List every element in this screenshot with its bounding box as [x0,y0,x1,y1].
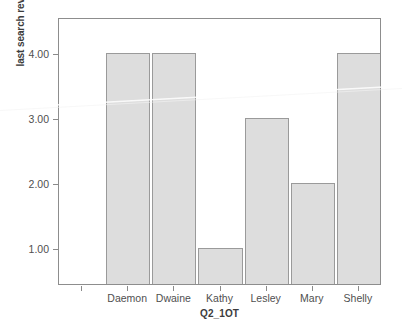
y-axis-tick-label: 2.00 [15,179,49,189]
x-axis-tick-mark [358,286,359,291]
x-axis-tick-mark [173,286,174,291]
bar[interactable] [198,248,242,284]
y-axis-title: last search revelance [14,0,28,92]
bar[interactable] [152,53,196,284]
x-axis-tick-label: Kathy [196,293,242,304]
x-axis-title: Q2_1OT [58,308,381,319]
x-axis-tick-label: Daemon [104,293,150,304]
bar-chart: last search revelance 4.003.002.001.00 D… [0,0,402,336]
y-axis-tick-label: 1.00 [15,244,49,254]
y-axis-tick-label: 3.00 [15,114,49,124]
bar[interactable] [106,53,150,284]
x-axis-tick-label: Dwaine [150,293,196,304]
y-axis-tick-label: 4.00 [15,49,49,59]
x-axis-tick-mark [266,286,267,291]
bar[interactable] [337,53,381,284]
x-axis-tick-label: Shelly [335,293,381,304]
bar[interactable] [245,118,289,284]
x-axis-tick-mark [81,286,82,291]
plot-area [58,18,381,285]
bar[interactable] [291,183,335,284]
x-axis-tick-label: Mary [289,293,335,304]
x-axis-tick-label: Lesley [243,293,289,304]
x-axis-tick-mark [220,286,221,291]
x-axis-tick-mark [127,286,128,291]
x-axis-tick-mark [312,286,313,291]
